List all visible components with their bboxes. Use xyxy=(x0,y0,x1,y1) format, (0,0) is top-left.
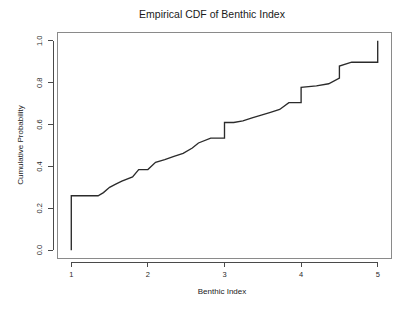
y-tick-label: 0.4 xyxy=(35,161,44,171)
x-tick-label: 4 xyxy=(299,270,303,279)
y-tick-label: 1.0 xyxy=(35,36,44,46)
x-tick-label: 5 xyxy=(376,270,380,279)
x-tick-label: 1 xyxy=(69,270,73,279)
ecdf-plot: 12345 0.00.20.40.60.81.0 Empirical CDF o… xyxy=(0,0,414,309)
x-tick-label: 3 xyxy=(222,270,226,279)
chart-canvas: 12345 0.00.20.40.60.81.0 Empirical CDF o… xyxy=(0,0,414,309)
plot-panel-border xyxy=(58,33,392,259)
y-axis-ticks: 0.00.20.40.60.81.0 xyxy=(35,36,53,256)
y-tick-label: 0.6 xyxy=(35,119,44,129)
x-tick-label: 2 xyxy=(146,270,150,279)
ecdf-step-curve xyxy=(71,41,377,250)
x-axis-title: Benthic Index xyxy=(198,287,246,296)
chart-title: Empirical CDF of Benthic Index xyxy=(139,8,286,20)
y-tick-label: 0.0 xyxy=(35,245,44,255)
y-axis-title: Cumulative Probability xyxy=(16,105,25,185)
y-tick-label: 0.2 xyxy=(35,203,44,213)
y-tick-label: 0.8 xyxy=(35,78,44,88)
x-axis-ticks: 12345 xyxy=(69,262,380,279)
